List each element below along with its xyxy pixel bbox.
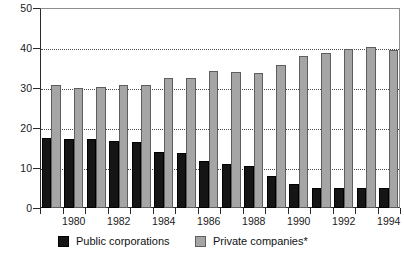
x-tick-mark bbox=[310, 208, 311, 214]
y-tick-mark bbox=[33, 8, 40, 9]
bar-private-companies bbox=[186, 78, 195, 208]
y-tick-mark bbox=[33, 208, 40, 209]
bar-private-companies bbox=[119, 85, 128, 208]
bar-group bbox=[175, 8, 198, 208]
legend-label: Public corporations bbox=[76, 236, 170, 247]
bar-group bbox=[130, 8, 153, 208]
x-tick-mark bbox=[400, 208, 401, 214]
bar-public-corporations bbox=[177, 153, 186, 208]
bar-public-corporations bbox=[64, 139, 73, 208]
x-tick-mark bbox=[40, 208, 41, 214]
x-tick-mark bbox=[130, 208, 131, 214]
y-tick-mark bbox=[33, 168, 40, 169]
bar-group bbox=[378, 8, 401, 208]
bar-private-companies bbox=[344, 49, 353, 208]
bar-group bbox=[63, 8, 86, 208]
x-tick-mark bbox=[63, 208, 64, 214]
bar-private-companies bbox=[321, 53, 330, 208]
bar-private-companies bbox=[51, 85, 60, 208]
y-tick-label: 30 bbox=[4, 83, 32, 94]
bar-public-corporations bbox=[312, 188, 321, 208]
bar-group bbox=[243, 8, 266, 208]
x-tick-label: 1980 bbox=[62, 216, 85, 227]
bar-public-corporations bbox=[132, 142, 141, 208]
bar-group bbox=[40, 8, 63, 208]
bar-private-companies bbox=[276, 65, 285, 208]
bar-public-corporations bbox=[154, 152, 163, 208]
bar-group bbox=[333, 8, 356, 208]
bar-group bbox=[310, 8, 333, 208]
x-tick-mark bbox=[378, 208, 379, 214]
x-tick-label: 1992 bbox=[332, 216, 355, 227]
y-tick-label: 20 bbox=[4, 123, 32, 134]
x-tick-label: 1982 bbox=[107, 216, 130, 227]
y-tick-label: 0 bbox=[4, 203, 32, 214]
bar-private-companies bbox=[141, 85, 150, 208]
bar-public-corporations bbox=[334, 188, 343, 208]
x-tick-mark bbox=[243, 208, 244, 214]
bar-private-companies bbox=[254, 73, 263, 208]
bar-public-corporations bbox=[244, 166, 253, 208]
x-tick-mark bbox=[220, 208, 221, 214]
bar-group bbox=[85, 8, 108, 208]
bar-public-corporations bbox=[289, 184, 298, 208]
bar-public-corporations bbox=[199, 161, 208, 208]
bar-public-corporations bbox=[357, 188, 366, 208]
x-tick-mark bbox=[265, 208, 266, 214]
chart-legend: Public corporationsPrivate companies* bbox=[0, 234, 404, 254]
bar-chart: 01020304050 1980198219841986198819901992… bbox=[0, 0, 404, 257]
x-tick-label: 1988 bbox=[242, 216, 265, 227]
bar-private-companies bbox=[389, 50, 398, 208]
legend-swatch-private bbox=[195, 236, 206, 247]
bar-private-companies bbox=[209, 71, 218, 208]
legend-swatch-public bbox=[58, 236, 69, 247]
bar-public-corporations bbox=[267, 176, 276, 208]
x-tick-label: 1984 bbox=[152, 216, 175, 227]
x-tick-mark bbox=[333, 208, 334, 214]
y-tick-mark bbox=[33, 88, 40, 89]
bar-private-companies bbox=[74, 88, 83, 208]
bar-public-corporations bbox=[87, 139, 96, 208]
legend-label: Private companies* bbox=[213, 236, 308, 247]
bar-group bbox=[153, 8, 176, 208]
x-tick-mark bbox=[198, 208, 199, 214]
bar-group bbox=[288, 8, 311, 208]
x-tick-mark bbox=[153, 208, 154, 214]
bar-public-corporations bbox=[379, 188, 388, 208]
y-tick-mark bbox=[33, 128, 40, 129]
bar-public-corporations bbox=[222, 164, 231, 208]
bar-private-companies bbox=[299, 56, 308, 208]
bar-group bbox=[355, 8, 378, 208]
legend-entry-private[interactable]: Private companies* bbox=[195, 236, 308, 247]
x-tick-mark bbox=[288, 208, 289, 214]
y-tick-label: 40 bbox=[4, 43, 32, 54]
x-tick-label: 1986 bbox=[197, 216, 220, 227]
y-tick-mark bbox=[33, 48, 40, 49]
y-tick-label: 50 bbox=[4, 3, 32, 14]
bar-group bbox=[220, 8, 243, 208]
x-tick-mark bbox=[108, 208, 109, 214]
bar-private-companies bbox=[96, 87, 105, 208]
x-tick-mark bbox=[355, 208, 356, 214]
bar-private-companies bbox=[231, 72, 240, 208]
bar-private-companies bbox=[366, 47, 375, 208]
bar-public-corporations bbox=[109, 141, 118, 208]
bar-group bbox=[108, 8, 131, 208]
x-tick-mark bbox=[85, 208, 86, 214]
x-tick-label: 1994 bbox=[377, 216, 400, 227]
bars-layer bbox=[40, 8, 400, 208]
bar-group bbox=[265, 8, 288, 208]
bar-public-corporations bbox=[42, 138, 51, 208]
bar-group bbox=[198, 8, 221, 208]
bar-private-companies bbox=[164, 78, 173, 208]
x-tick-label: 1990 bbox=[287, 216, 310, 227]
x-tick-mark bbox=[175, 208, 176, 214]
legend-entry-public[interactable]: Public corporations bbox=[58, 236, 170, 247]
y-tick-label: 10 bbox=[4, 163, 32, 174]
